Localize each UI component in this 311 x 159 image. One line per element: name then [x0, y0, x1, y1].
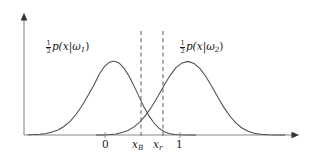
gaussian-curve-omega2: [96, 61, 285, 135]
x-tick-label-x-r-subscript: r: [159, 143, 162, 152]
curve-label-omega1-body: p(x|ω: [52, 40, 81, 52]
x-tick-label-one: 1: [176, 139, 183, 150]
x-tick-label-zero-text: 0: [102, 138, 109, 150]
curve-label-omega2-close: ): [219, 40, 223, 52]
x-tick-label-x-r: xr: [153, 139, 162, 151]
gaussian-decision-boundary-figure: 12p(x|ω1) 12p(x|ω2) 0 xB xr 1: [0, 0, 311, 159]
curve-label-omega1: 12p(x|ω1): [46, 40, 89, 55]
curve-label-omega2: 12p(x|ω2): [180, 40, 223, 55]
fraction-one-half-right: 12: [180, 40, 185, 55]
x-tick-label-zero: 0: [102, 139, 109, 150]
x-tick-label-x-b: xB: [132, 139, 143, 151]
x-tick-label-one-text: 1: [176, 138, 183, 150]
fraction-one-half-left: 12: [46, 40, 51, 55]
x-tick-label-x-b-subscript: B: [138, 143, 143, 152]
gaussian-curve-omega1: [28, 61, 196, 135]
curve-label-omega2-body: p(x|ω: [186, 40, 215, 52]
plot-canvas: [0, 0, 311, 159]
curve-label-omega1-close: ): [85, 40, 89, 52]
